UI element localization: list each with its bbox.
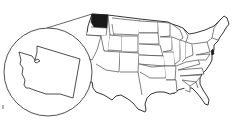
locator-map: Location of Washington State in the Unit… xyxy=(0,0,244,124)
inset-magnifier xyxy=(4,28,92,116)
leader-line-top xyxy=(47,14,92,28)
state-washington xyxy=(91,14,108,28)
us-map xyxy=(78,14,229,112)
